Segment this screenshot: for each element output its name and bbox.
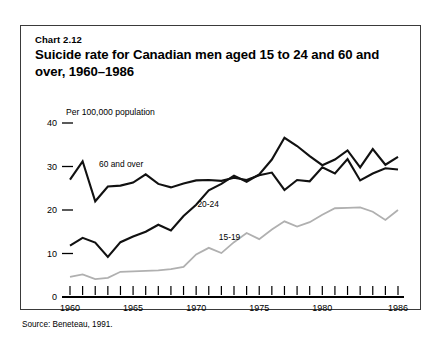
series-annotation: 60 and over	[99, 159, 143, 169]
y-tick-label: 30	[47, 162, 57, 172]
y-tick-label: 40	[47, 118, 57, 128]
y-tick-label: 10	[47, 249, 57, 259]
line-chart-plot: 01020304019601965197019751980198660 and …	[21, 26, 422, 311]
x-tick-label: 1980	[312, 303, 332, 311]
chart-figure-frame: Chart 2.12 Suicide rate for Canadian men…	[20, 25, 421, 310]
x-tick-label: 1975	[249, 303, 269, 311]
x-tick-label: 1970	[186, 303, 206, 311]
source-note: Source: Beneteau, 1991.	[22, 320, 113, 329]
series-annotation: 20-24	[197, 199, 219, 209]
y-tick-label: 0	[52, 292, 57, 302]
series-annotation: 15-19	[219, 232, 241, 242]
x-tick-label: 1960	[60, 303, 80, 311]
y-tick-label: 20	[47, 205, 57, 215]
x-tick-label: 1965	[123, 303, 143, 311]
x-tick-label: 1986	[388, 303, 408, 311]
